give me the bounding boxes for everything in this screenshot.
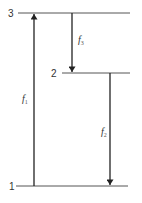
transition-f1-label: f1 bbox=[22, 93, 28, 105]
transition-f3: f3 bbox=[72, 13, 84, 72]
transition-f3-label: f3 bbox=[78, 34, 84, 46]
energy-level-diagram: 3 2 1 f1 f3 f2 bbox=[0, 0, 142, 203]
transition-f2-label: f2 bbox=[101, 126, 107, 138]
level-2: 2 bbox=[51, 68, 130, 79]
level-3-label: 3 bbox=[8, 8, 14, 19]
level-2-label: 2 bbox=[51, 68, 57, 79]
transition-f1: f1 bbox=[22, 14, 34, 186]
level-1-label: 1 bbox=[9, 181, 15, 192]
transition-f2: f2 bbox=[101, 73, 110, 185]
level-3: 3 bbox=[8, 8, 130, 19]
